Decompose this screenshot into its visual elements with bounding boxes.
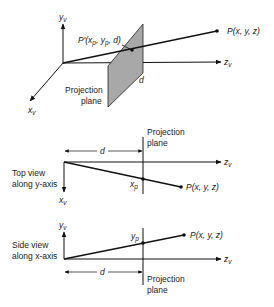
top-d-label: d bbox=[100, 146, 105, 156]
side-z-label: zv bbox=[223, 254, 232, 265]
plane-label-line1: Projection bbox=[65, 85, 103, 95]
top-caption-line2: along y-axis bbox=[12, 179, 57, 189]
top-projector-line bbox=[64, 162, 181, 187]
side-plane-label-line1: Projection bbox=[147, 274, 185, 284]
top-xp-label: xp bbox=[129, 179, 138, 191]
top-caption-line1: Top view bbox=[12, 168, 46, 178]
distance-d-label: d bbox=[139, 75, 144, 85]
perspective-projection-diagram: yv xv zv P(x, y, z) P′(xp, yp, d) d Proj… bbox=[0, 0, 274, 307]
top-plane-label-line2: plane bbox=[147, 138, 168, 148]
side-caption-line1: Side view bbox=[12, 240, 49, 250]
side-yp-label: yp bbox=[130, 231, 139, 243]
side-view: d Side view along x-axis yv zv yp P(x, y… bbox=[12, 220, 232, 295]
side-y-label: yv bbox=[58, 220, 67, 231]
top-view: Projection plane d Top view along y-axis… bbox=[12, 127, 232, 206]
side-yp-dot bbox=[141, 241, 145, 245]
top-x-label: xv bbox=[58, 195, 67, 206]
point-p-prime-label: P′(xp, yp, d) bbox=[78, 35, 121, 47]
point-p-prime-dot bbox=[130, 48, 134, 52]
top-plane-label-line1: Projection bbox=[147, 127, 185, 137]
side-caption-line2: along x-axis bbox=[12, 251, 57, 261]
point-p-label: P(x, y, z) bbox=[227, 26, 260, 36]
perspective-view: yv xv zv P(x, y, z) P′(xp, yp, d) d Proj… bbox=[27, 12, 260, 116]
top-z-label: zv bbox=[223, 157, 232, 168]
y-axis-label: yv bbox=[58, 12, 67, 23]
x-axis-label: xv bbox=[27, 105, 36, 116]
side-projector-line bbox=[64, 235, 184, 259]
plane-label-line2: plane bbox=[81, 96, 102, 106]
side-p-label: P(x, y, z) bbox=[190, 230, 223, 240]
top-xp-dot bbox=[141, 177, 145, 181]
top-p-label: P(x, y, z) bbox=[186, 182, 219, 192]
side-plane-label-line2: plane bbox=[147, 285, 168, 295]
z-axis-label: zv bbox=[223, 57, 232, 68]
point-p-dot bbox=[215, 29, 219, 33]
side-p-dot bbox=[182, 233, 186, 237]
side-d-label: d bbox=[100, 267, 105, 277]
x-axis-line bbox=[30, 63, 63, 101]
top-p-dot bbox=[179, 185, 183, 189]
